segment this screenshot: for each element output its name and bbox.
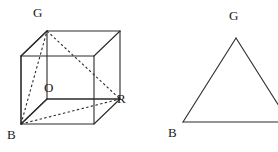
cube-vertex-label-g: G — [33, 6, 42, 19]
cube-vertex-label-o: O — [44, 81, 53, 94]
cube-vertex-label-b: B — [7, 128, 16, 141]
triangle-edge-b-to-g — [183, 38, 236, 122]
triangle-vertex-label-g: G — [229, 9, 238, 22]
triangle-edge-g-to-r — [236, 38, 278, 122]
cube-figure — [21, 31, 120, 124]
geometry-figure-canvas: G O R B G B — [0, 0, 278, 152]
triangle-vertex-label-b: B — [168, 126, 177, 139]
diagonal-b-to-r — [21, 99, 120, 124]
triangle-figure — [183, 38, 278, 122]
diagonal-b-to-g — [21, 31, 47, 124]
cube-edge-front-top-right-to-back-top-right — [94, 31, 120, 56]
cube-vertex-label-r: R — [117, 92, 126, 105]
